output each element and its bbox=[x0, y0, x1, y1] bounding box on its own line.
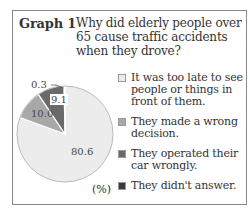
unit-label: (%) bbox=[92, 183, 111, 196]
label-operated-wrongly: 9.1 bbox=[50, 94, 68, 105]
legend-item-wrong-decision: They made a wrong decision. bbox=[118, 116, 246, 140]
legend-swatch bbox=[118, 74, 126, 82]
label-wrong-decision: 10.0 bbox=[31, 108, 53, 119]
legend-item-no-answer: They didn't answer. bbox=[118, 180, 246, 192]
graph-title: Why did elderly people over 65 cause tra… bbox=[76, 16, 244, 58]
legend-item-too-late: It was too late to see people or things … bbox=[118, 72, 246, 108]
graph-number: Graph 1 bbox=[19, 16, 76, 31]
legend-item-operated-wrongly: They operated their car wrongly. bbox=[118, 148, 246, 172]
legend-swatch bbox=[118, 118, 126, 126]
label-too-late: 80.6 bbox=[71, 146, 93, 157]
label-no-answer: 0.3 bbox=[31, 79, 47, 90]
legend-swatch bbox=[118, 182, 126, 190]
legend: It was too late to see people or things … bbox=[118, 72, 246, 200]
legend-swatch bbox=[118, 150, 126, 158]
